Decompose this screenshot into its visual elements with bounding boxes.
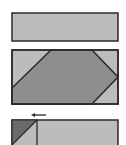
diagram-canvas: [0, 0, 126, 145]
left-arrow-icon: [31, 113, 46, 117]
top-panel: [12, 13, 118, 41]
top-rectangle: [12, 13, 118, 41]
middle-panel: [12, 50, 118, 104]
bottom-panel: [12, 120, 118, 145]
